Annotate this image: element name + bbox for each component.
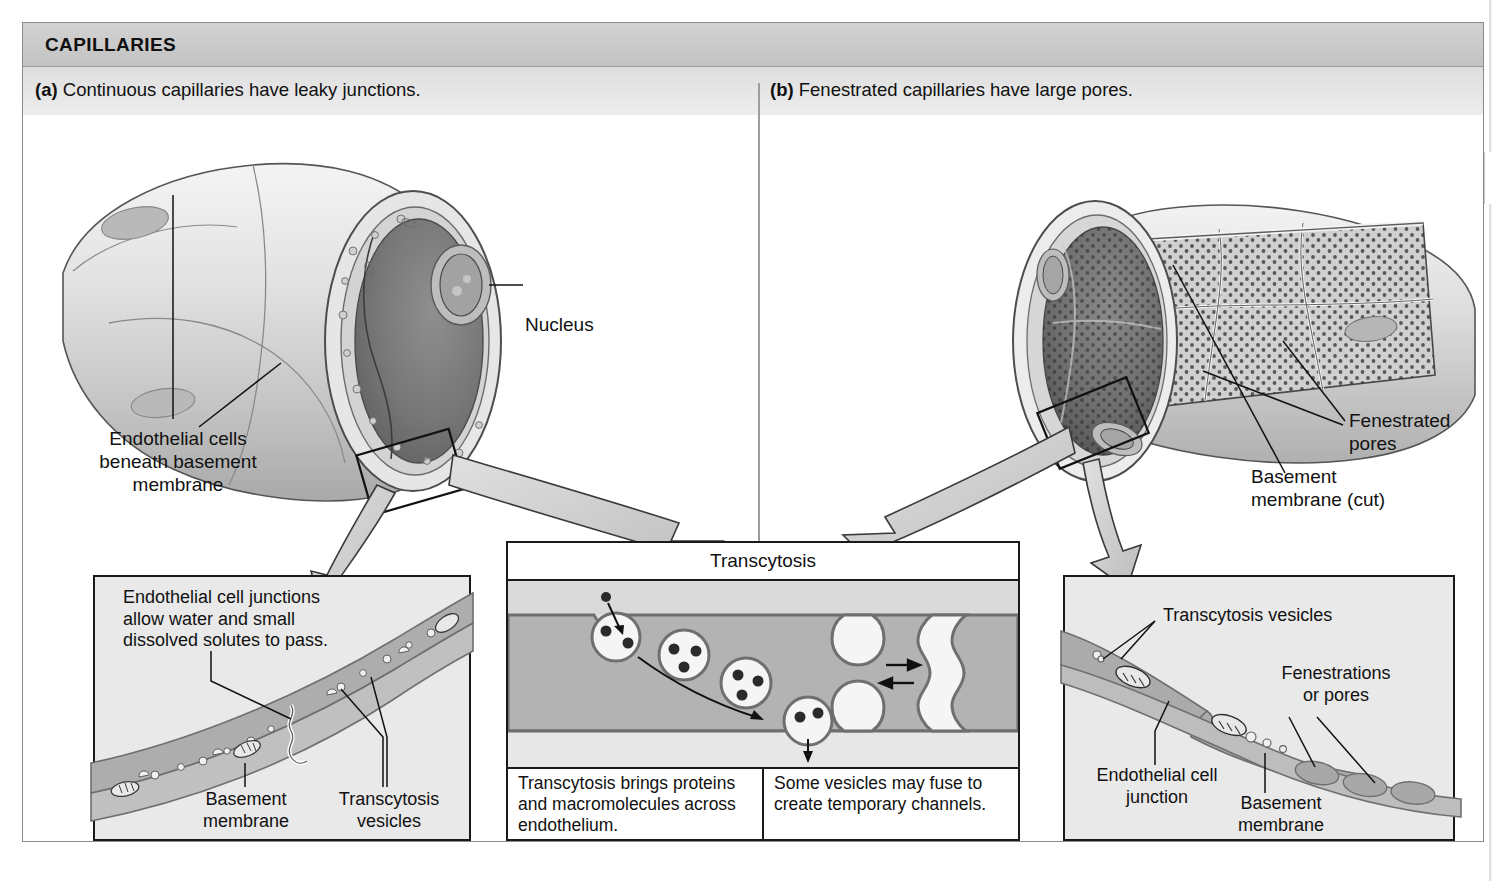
label-fenestrated-pores: Fenestrated pores [1349, 409, 1450, 455]
panel-b-caption-text: Fenestrated capillaries have large pores… [799, 79, 1133, 100]
panel-b-caption: (b) Fenestrated capillaries have large p… [770, 79, 1133, 101]
label-nucleus: Nucleus [525, 313, 594, 336]
figure-header-title: CAPILLARIES [45, 34, 176, 56]
inset-right-basement-membrane: Basement membrane [1211, 793, 1351, 836]
inset-transcytosis-artwork [508, 581, 1018, 769]
panel-b-marker: (b) [770, 79, 794, 100]
panel-a-marker: (a) [35, 79, 58, 100]
panel-a-caption-text: Continuous capillaries have leaky juncti… [63, 79, 421, 100]
callout-box-a [356, 429, 465, 515]
inset-left-transcytosis-vesicles: Transcytosis vesicles [319, 789, 459, 832]
inset-transcytosis-caption-right: Some vesicles may fuse to create tempora… [762, 767, 1018, 841]
figure-header-bar [23, 23, 1483, 67]
label-basement-membrane-cut: Basement membrane (cut) [1251, 465, 1385, 511]
inset-fenestrated-detail: Transcytosis vesicles Fenestrations or p… [1063, 575, 1455, 841]
inset-right-fenestrations: Fenestrations or pores [1261, 663, 1411, 706]
label-endothelial-cells: Endothelial cells beneath basement membr… [63, 427, 293, 497]
page-edge-notch [1484, 152, 1506, 204]
callout-box-b [1037, 377, 1148, 469]
inset-continuous-detail: Endothelial cell junctions allow water a… [93, 575, 471, 841]
inset-left-basement-membrane: Basement membrane [181, 789, 311, 832]
panel-a-caption: (a) Continuous capillaries have leaky ju… [35, 79, 421, 101]
page-edge [1489, 0, 1492, 881]
inset-transcytosis: Transcytosis [506, 541, 1020, 841]
panel-divider [758, 83, 760, 553]
inset-transcytosis-captions: Transcytosis brings proteins and macromo… [508, 767, 1018, 841]
inset-transcytosis-caption-left: Transcytosis brings proteins and macromo… [508, 767, 762, 841]
inset-left-junction-note: Endothelial cell junctions allow water a… [123, 587, 328, 652]
inset-right-transcytosis-vesicles: Transcytosis vesicles [1163, 605, 1332, 627]
arrow-b-to-right-inset [1083, 459, 1141, 589]
capillaries-figure: CAPILLARIES (a) Continuous capillaries h… [22, 22, 1484, 842]
inset-transcytosis-title: Transcytosis [508, 543, 1018, 581]
